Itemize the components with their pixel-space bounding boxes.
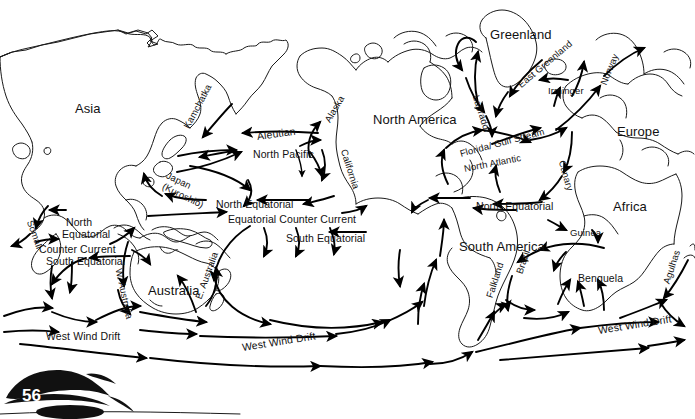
current-label-north-equatorial-atlantic: North Equatorial [476, 200, 553, 212]
ocean-currents-map-page: AsiaNorth AmericaSouth AmericaEuropeAfri… [0, 0, 695, 419]
current-label-south-equatorial-indian: South Equatorial [46, 255, 125, 267]
current-label-north-equatorial-indian: North [66, 216, 92, 228]
page-number: 56 [22, 386, 41, 406]
continent-label-asia: Asia [75, 101, 101, 116]
continent-label-australia: Australia [148, 283, 199, 298]
current-label-irminger: Irminger [548, 85, 584, 96]
continent-label-africa: Africa [613, 199, 647, 214]
current-label-equatorial-counter-current: Equatorial Counter Current [228, 213, 356, 225]
current-label-south-equatorial-pacific: South Equatorial [286, 232, 365, 244]
current-label-west-wind-drift-indian: West Wind Drift [46, 330, 120, 342]
current-label-counter-current-indian: Counter Current [39, 243, 116, 255]
current-label-benguela: Benguela [578, 272, 623, 284]
continent-label-north-america: North America [373, 112, 457, 127]
current-label-north-pacific: North Pacific [253, 148, 314, 160]
continent-label-greenland: Greenland [490, 27, 552, 42]
current-arrows [4, 38, 688, 367]
current-label-guinea: Guinea [570, 227, 601, 238]
continent-label-europe: Europe [617, 124, 660, 139]
world-ocean-currents-map [0, 0, 695, 419]
current-label-north-equatorial-pacific: North Equatorial [216, 198, 293, 210]
continent-label-south-america: South America [459, 239, 545, 254]
current-label-north-equatorial-indian-2: Equatorial [62, 228, 110, 240]
